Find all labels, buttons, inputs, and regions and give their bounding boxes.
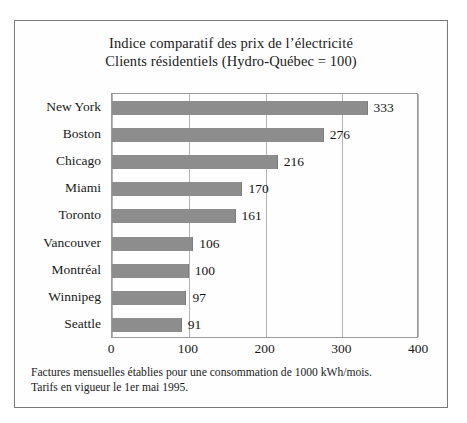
value-axis-labels: 0100200300400 bbox=[111, 341, 418, 361]
bar-value-label: 91 bbox=[188, 317, 202, 333]
footnote-line-2: Tarifs en vigueur le 1er mai 1995. bbox=[31, 381, 372, 396]
bar-row: 97 bbox=[112, 284, 417, 311]
bar-value-label: 216 bbox=[284, 154, 304, 170]
category-axis-labels: New YorkBostonChicagoMiamiTorontoVancouv… bbox=[15, 93, 107, 338]
category-label: Toronto bbox=[15, 202, 107, 229]
chart-title-line-1: Indice comparatif des prix de l’électric… bbox=[15, 34, 447, 52]
bar-row: 161 bbox=[112, 203, 417, 230]
bar bbox=[112, 128, 324, 142]
category-label: Seattle bbox=[15, 311, 107, 338]
bar-value-label: 106 bbox=[199, 236, 219, 252]
bar-row: 333 bbox=[112, 94, 417, 121]
category-label: Boston bbox=[15, 120, 107, 147]
bar-value-label: 333 bbox=[374, 100, 394, 116]
bar bbox=[112, 182, 242, 196]
bar bbox=[112, 209, 236, 223]
bar-value-label: 97 bbox=[192, 290, 206, 306]
x-tick-label: 400 bbox=[408, 341, 428, 357]
bar bbox=[112, 264, 189, 278]
category-label: New York bbox=[15, 93, 107, 120]
bar-row: 216 bbox=[112, 148, 417, 175]
bar-value-label: 170 bbox=[248, 181, 268, 197]
x-tick-label: 0 bbox=[108, 341, 115, 357]
bar bbox=[112, 101, 368, 115]
bar-value-label: 100 bbox=[195, 263, 215, 279]
bar bbox=[112, 318, 182, 332]
bar-value-label: 161 bbox=[242, 208, 262, 224]
footnote: Factures mensuelles établies pour une co… bbox=[31, 366, 372, 395]
chart-title-line-2: Clients résidentiels (Hydro-Québec = 100… bbox=[15, 52, 447, 70]
chart-title: Indice comparatif des prix de l’électric… bbox=[15, 34, 447, 70]
bar-row: 170 bbox=[112, 176, 417, 203]
bar bbox=[112, 291, 186, 305]
bar-row: 106 bbox=[112, 230, 417, 257]
x-tick-label: 300 bbox=[331, 341, 351, 357]
figure-frame: Indice comparatif des prix de l’électric… bbox=[14, 20, 448, 408]
x-tick-label: 100 bbox=[178, 341, 198, 357]
bar bbox=[112, 237, 193, 251]
category-label: Chicago bbox=[15, 147, 107, 174]
bar-row: 100 bbox=[112, 257, 417, 284]
gridline bbox=[418, 94, 419, 337]
category-label: Winnipeg bbox=[15, 283, 107, 310]
plot-area: 3332762161701611061009791 bbox=[111, 93, 418, 338]
bar-row: 91 bbox=[112, 312, 417, 339]
bar-row: 276 bbox=[112, 121, 417, 148]
footnote-line-1: Factures mensuelles établies pour une co… bbox=[31, 366, 372, 381]
category-label: Montréal bbox=[15, 256, 107, 283]
bar-series: 3332762161701611061009791 bbox=[112, 94, 417, 337]
category-label: Vancouver bbox=[15, 229, 107, 256]
category-label: Miami bbox=[15, 175, 107, 202]
bar bbox=[112, 155, 278, 169]
bar-value-label: 276 bbox=[330, 127, 350, 143]
x-tick-label: 200 bbox=[254, 341, 274, 357]
